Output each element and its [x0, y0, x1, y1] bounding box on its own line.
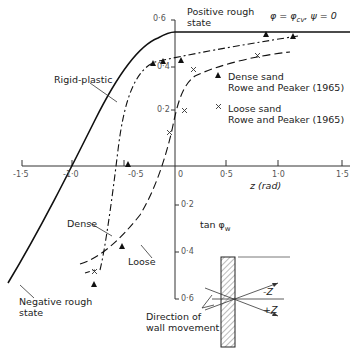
- legend-dense-source: Rowe and Peaker (1965): [228, 82, 344, 93]
- y-axis-label: tan φw: [200, 219, 231, 235]
- legend-dense-label: Dense sand: [228, 71, 284, 82]
- legend-triangle-icon: [215, 72, 221, 78]
- wall-diagram: [202, 257, 290, 347]
- y-tick-label: 0·6: [153, 14, 166, 23]
- plus-z-label: +Z: [263, 304, 277, 315]
- x-tick-label: 1·5: [336, 170, 349, 179]
- negative-rough-label-2: state: [19, 307, 43, 318]
- x-tick-label: 0·5: [220, 170, 233, 179]
- condition-label: φ = φcv, ψ = 0: [270, 10, 337, 26]
- x-tick-label: -1·0: [63, 170, 79, 179]
- legend-loose-source: Rowe and Peaker (1965): [228, 114, 344, 125]
- dense-curve-label: Dense: [67, 218, 97, 229]
- rigid-plastic-curve: [8, 32, 350, 283]
- legend-cross-icon: [216, 104, 221, 109]
- negative-rough-label: Negative rough: [19, 296, 92, 307]
- x-tick-label: 0: [178, 170, 183, 179]
- x-tick-label: -1·5: [13, 170, 29, 179]
- direction-label: Direction of: [146, 311, 201, 322]
- positive-rough-label-2: state: [187, 17, 211, 28]
- x-tick-label: 1·0: [272, 170, 285, 179]
- y-tick-label: 0·2: [181, 200, 194, 209]
- legend-loose-label: Loose sand: [228, 103, 281, 114]
- direction-label-2: wall movement: [146, 322, 219, 333]
- y-tick-label: 0·2: [157, 105, 170, 114]
- loose-curve-label: Loose: [128, 256, 156, 267]
- y-tick-label: 0·6: [181, 294, 194, 303]
- y-tick-label: 0·4: [181, 247, 194, 256]
- positive-rough-label: Positive rough: [187, 6, 254, 17]
- y-tick-label: 0·4: [157, 62, 170, 71]
- rigid-plastic-label: Rigid-plastic: [54, 74, 112, 85]
- x-ticks: [22, 160, 342, 166]
- x-axis-label: z (rad): [250, 180, 281, 191]
- x-tick-label: -0·5: [128, 170, 144, 179]
- minus-z-label: -Z: [263, 286, 273, 297]
